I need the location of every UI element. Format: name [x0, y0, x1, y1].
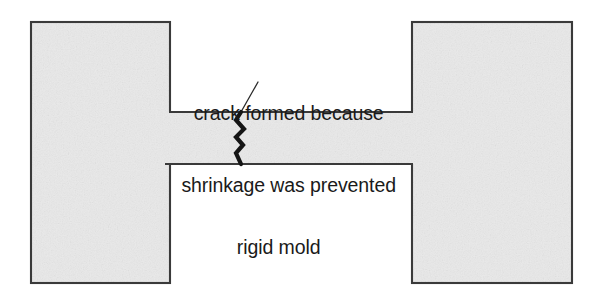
crack-callout-line-2: shrinkage was prevented	[181, 174, 396, 198]
rigid-mold-label: rigid mold	[0, 212, 604, 283]
rigid-mold-label-text: rigid mold	[237, 236, 321, 260]
figure-root: crack formed because shrinkage was preve…	[0, 0, 604, 298]
crack-callout-line-1: crack formed because	[181, 102, 396, 126]
